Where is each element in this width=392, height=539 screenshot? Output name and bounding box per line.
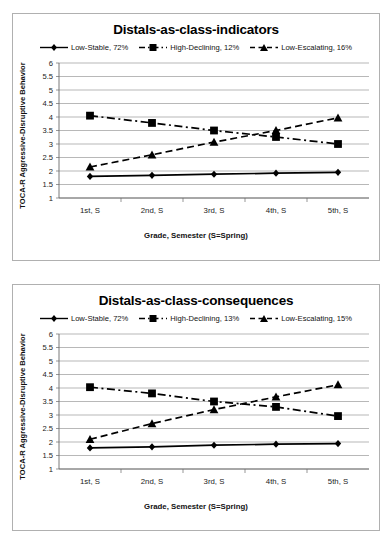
svg-text:2nd, S: 2nd, S [141,477,164,486]
svg-text:6: 6 [49,59,53,68]
legend-top: Low-Stable, 72% High-Declining, 12% Low-… [13,42,379,53]
svg-text:2: 2 [49,438,53,447]
legend-label-low-escalating: Low-Escalating, 16% [281,44,352,52]
svg-text:3: 3 [49,411,53,420]
svg-text:5: 5 [49,357,53,366]
svg-text:3: 3 [49,140,53,149]
legend-item-low-stable: Low-Stable, 72% [40,313,128,324]
y-axis-title-top: TOCA-R Aggressive-Disruptive Behavior [14,55,30,215]
svg-text:1.5: 1.5 [42,451,53,460]
svg-text:5th, S: 5th, S [328,477,348,486]
svg-text:2.5: 2.5 [42,153,53,162]
svg-text:1st, S: 1st, S [80,206,100,215]
triangle-dashed-line-icon [250,42,278,53]
svg-text:3rd, S: 3rd, S [204,206,225,215]
svg-text:4th, S: 4th, S [266,206,286,215]
svg-text:4.5: 4.5 [42,370,53,379]
x-axis-title-top: Grade, Semester (S=Spring) [13,231,379,240]
svg-text:5th, S: 5th, S [328,206,348,215]
svg-text:3.5: 3.5 [42,126,53,135]
legend-item-low-escalating: Low-Escalating, 16% [250,42,352,53]
svg-text:1st, S: 1st, S [80,477,100,486]
svg-text:1: 1 [49,194,53,203]
legend-label-low-escalating: Low-Escalating, 15% [281,315,352,323]
legend-item-low-escalating: Low-Escalating, 15% [250,313,352,324]
legend-label-low-stable: Low-Stable, 72% [71,315,128,323]
svg-text:4: 4 [49,384,53,393]
svg-text:4.5: 4.5 [42,99,53,108]
diamond-solid-line-icon [40,313,68,324]
svg-text:6: 6 [49,330,53,339]
legend-item-high-declining: High-Declining, 13% [139,313,239,324]
svg-text:5.5: 5.5 [42,72,53,81]
y-axis-title-bottom: TOCA-R Aggressive-Disruptive Behavior [14,326,30,486]
chart-panel-consequences: Distals-as-class-consequences Low-Stable… [12,284,380,531]
square-dashdot-line-icon [139,313,167,324]
svg-text:1: 1 [49,465,53,474]
svg-text:3rd, S: 3rd, S [204,477,225,486]
svg-text:4th, S: 4th, S [266,477,286,486]
svg-text:4: 4 [49,113,53,122]
square-dashdot-line-icon [139,42,167,53]
legend-label-high-declining: High-Declining, 13% [170,315,239,323]
legend-label-low-stable: Low-Stable, 72% [71,44,128,52]
chart-canvas-bottom: 11.522.533.544.555.561st, S2nd, S3rd, S4… [13,326,379,501]
plot-area-bottom: TOCA-R Aggressive-Disruptive Behavior 11… [13,326,381,501]
page-title-bottom: Distals-as-class-consequences [13,293,379,308]
x-axis-title-bottom: Grade, Semester (S=Spring) [13,502,379,511]
svg-text:5.5: 5.5 [42,343,53,352]
chart-canvas-top: 11.522.533.544.555.561st, S2nd, S3rd, S4… [13,55,379,230]
svg-text:2nd, S: 2nd, S [141,206,164,215]
triangle-dashed-line-icon [250,313,278,324]
page-title-top: Distals-as-class-indicators [13,22,379,37]
svg-text:1.5: 1.5 [42,180,53,189]
legend-label-high-declining: High-Declining, 12% [170,44,239,52]
plot-area-top: TOCA-R Aggressive-Disruptive Behavior 11… [13,55,381,230]
legend-bottom: Low-Stable, 72% High-Declining, 13% Low-… [13,313,379,324]
legend-item-low-stable: Low-Stable, 72% [40,42,128,53]
svg-text:5: 5 [49,86,53,95]
diamond-solid-line-icon [40,42,68,53]
svg-text:3.5: 3.5 [42,397,53,406]
legend-item-high-declining: High-Declining, 12% [139,42,239,53]
chart-panel-indicators: Distals-as-class-indicators Low-Stable, … [12,13,380,261]
figure-page: Distals-as-class-indicators Low-Stable, … [0,0,392,539]
svg-text:2.5: 2.5 [42,424,53,433]
svg-text:2: 2 [49,167,53,176]
